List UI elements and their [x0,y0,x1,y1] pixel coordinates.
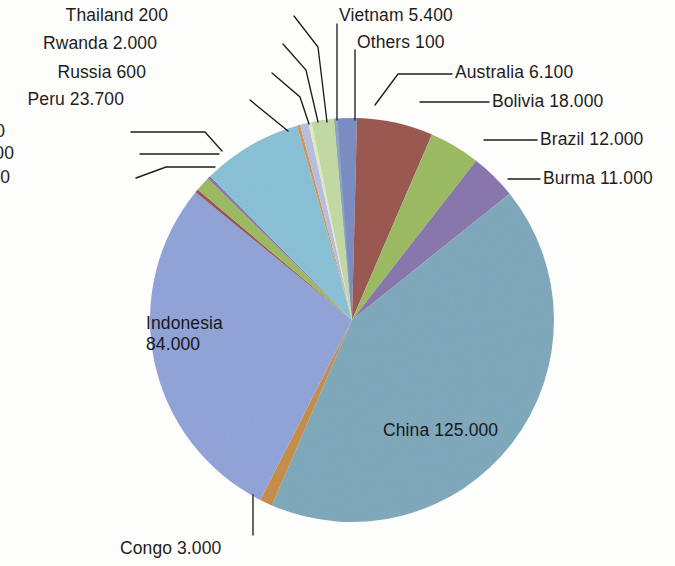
label-peru: Peru 23.700 [28,89,124,110]
label-nigeria: Nigeria 500 [0,121,5,142]
label-rwanda: Rwanda 2.000 [43,33,157,54]
leader-line-russia [272,73,309,124]
label-bolivia: Bolivia 18.000 [492,91,603,112]
leader-line-nigeria [131,132,222,151]
label-malaysia: Malaysia 3.500 [0,143,14,164]
label-laos: Laos 800 [0,167,10,188]
label-congo: Congo 3.000 [120,538,221,559]
label-burma: Burma 11.000 [543,168,653,189]
label-thailand: Thailand 200 [66,5,168,26]
label-others: Others 100 [357,32,445,53]
leader-line-thailand [294,16,327,122]
leader-line-laos [136,167,215,178]
label-australia: Australia 6.100 [455,62,573,83]
leader-line-peru [250,100,288,131]
leader-line-rwanda [283,44,318,122]
pie-chart-figure: Thailand 200 Rwanda 2.000 Russia 600 Per… [0,0,675,566]
label-vietnam: Vietnam 5.400 [339,5,453,26]
pie-chart-svg [0,0,675,566]
leader-line-australia [375,74,452,105]
label-russia: Russia 600 [57,62,146,83]
label-china: China 125.000 [383,420,498,441]
label-indonesia-name: Indonesia [146,313,223,334]
label-indonesia-value: 84.000 [146,334,200,355]
label-brazil: Brazil 12.000 [540,129,643,150]
